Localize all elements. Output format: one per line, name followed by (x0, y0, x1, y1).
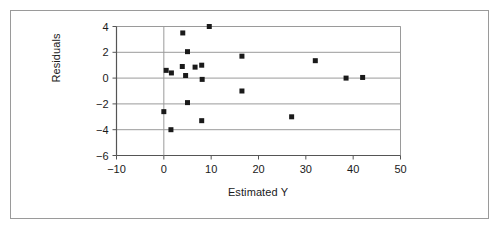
x-tick-label: 20 (252, 163, 264, 175)
data-point (183, 73, 188, 78)
y-tick-label: −4 (96, 124, 109, 136)
y-tick-label: 4 (102, 21, 108, 33)
data-point (193, 65, 198, 70)
data-point (185, 49, 190, 54)
y-tick-label: −6 (96, 150, 109, 162)
data-point (199, 118, 204, 123)
data-point (239, 89, 244, 94)
data-point (360, 75, 365, 80)
data-point (313, 58, 318, 63)
data-point (180, 64, 185, 69)
x-tick-label: −10 (107, 163, 126, 175)
data-point (169, 70, 174, 75)
y-tick-label: 0 (102, 72, 108, 84)
x-axis-label: Estimated Y (116, 186, 400, 198)
data-point (180, 30, 185, 35)
data-point (207, 24, 212, 29)
y-tick-label: −2 (96, 98, 109, 110)
x-tick-label: 10 (205, 163, 217, 175)
data-point (199, 63, 204, 68)
data-point (239, 54, 244, 59)
x-tick-label: 30 (300, 163, 312, 175)
y-axis-label: Residuals (50, 0, 62, 118)
figure-container: −6−4−2024−1001020304050 Residuals Estima… (0, 0, 500, 229)
data-point (164, 68, 169, 73)
x-tick-label: 0 (161, 163, 167, 175)
x-tick-label: 50 (394, 163, 406, 175)
data-point (168, 127, 173, 132)
data-point (200, 77, 205, 82)
data-point (185, 100, 190, 105)
data-point (161, 109, 166, 114)
data-point (344, 76, 349, 81)
x-tick-label: 40 (347, 163, 359, 175)
data-point (289, 114, 294, 119)
y-tick-label: 2 (102, 46, 108, 58)
